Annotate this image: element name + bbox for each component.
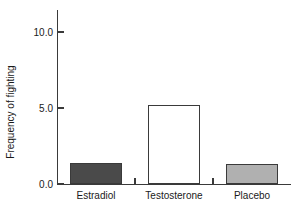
y-axis-tick-label: 5.0 xyxy=(17,103,53,114)
y-axis-tick-mark xyxy=(58,31,64,32)
x-axis-line xyxy=(57,184,291,185)
y-axis-tick-label: 0.0 xyxy=(17,179,53,190)
bar-testosterone[interactable] xyxy=(148,105,199,184)
y-axis-tick-mark xyxy=(58,107,64,108)
x-axis-tick-mark xyxy=(212,178,213,185)
y-axis-tick-labels: 0.05.010.0 xyxy=(12,0,53,224)
bar-chart-figure: Frequency of fighting 0.05.010.0 Estradi… xyxy=(0,0,307,224)
bar-estradiol[interactable] xyxy=(70,163,121,184)
x-axis-category-label-testosterone: Testosterone xyxy=(135,190,213,201)
x-axis-tick-mark xyxy=(134,178,135,185)
x-axis-category-label-placebo: Placebo xyxy=(213,190,291,201)
y-axis-tick-label: 10.0 xyxy=(17,27,53,38)
y-axis-line xyxy=(57,10,58,185)
y-axis-tick-mark xyxy=(58,183,64,184)
bar-placebo[interactable] xyxy=(226,164,277,184)
x-axis-category-label-estradiol: Estradiol xyxy=(57,190,135,201)
